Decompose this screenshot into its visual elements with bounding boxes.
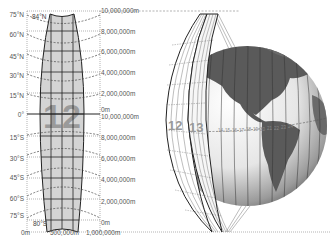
svg-text:16: 16 — [232, 128, 238, 133]
svg-text:14: 14 — [218, 128, 224, 133]
svg-text:17: 17 — [239, 128, 245, 133]
utm-diagram: 12 — [0, 0, 330, 244]
northing-label: 4,000,000m — [101, 69, 135, 76]
lat-label: 15°S — [0, 134, 24, 141]
globe-panel: 14 15 16 17 18 19 20 21 22 23 24 — [166, 14, 330, 232]
northing-label: 0m — [101, 106, 110, 113]
svg-text:20: 20 — [260, 127, 266, 132]
lat-label: 45°N — [0, 53, 24, 60]
svg-text:18: 18 — [246, 127, 252, 132]
northing-label: 10,000,000m — [101, 113, 139, 120]
svg-text:19: 19 — [253, 127, 259, 132]
lat-label: 30°N — [0, 72, 24, 79]
northing-label: 8,000,000m — [101, 134, 135, 141]
svg-text:22: 22 — [274, 126, 280, 131]
svg-text:23: 23 — [281, 125, 287, 130]
svg-text:15: 15 — [225, 128, 231, 133]
lat-label: 30°S — [0, 155, 24, 162]
northing-label: 8,000,000m — [101, 28, 135, 35]
lat-label: 0° — [0, 111, 24, 118]
easting-label: 500,000m — [50, 229, 79, 236]
lat-label: 75°N — [0, 11, 24, 18]
northing-label: 0m — [101, 219, 110, 226]
svg-text:21: 21 — [267, 126, 273, 131]
lat-label: 45°S — [0, 174, 24, 181]
northing-label: 6,000,000m — [101, 155, 135, 162]
easting-label: 1,000,000m — [86, 229, 120, 236]
north-limit-label: 84°N — [32, 13, 47, 20]
northing-label: 6,000,000m — [101, 48, 135, 55]
diagram-graphics: 12 — [0, 0, 330, 244]
northing-label: 2,000,000m — [101, 198, 135, 205]
northing-label: 4,000,000m — [101, 176, 135, 183]
northing-label: 2,000,000m — [101, 90, 135, 97]
lat-label: 60°S — [0, 195, 24, 202]
svg-text:24: 24 — [288, 124, 294, 129]
south-limit-label: 80°S — [33, 220, 47, 227]
strip-label-13: 13 — [189, 120, 203, 135]
lat-label: 75°S — [0, 212, 24, 219]
northing-label: 10,000,000m — [101, 7, 139, 14]
strip-label-12: 12 — [168, 118, 182, 133]
lat-label: 60°N — [0, 31, 24, 38]
lat-label: 15°N — [0, 92, 24, 99]
easting-label: 0m — [21, 229, 30, 236]
